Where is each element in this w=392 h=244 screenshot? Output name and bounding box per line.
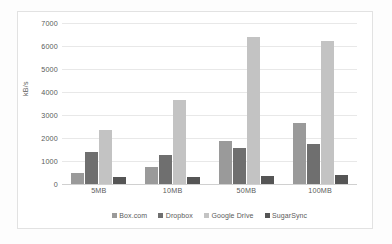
bar-group (210, 23, 284, 184)
x-axis: 5MB10MB50MB100MB (62, 186, 357, 202)
bar (159, 155, 172, 184)
legend-item: Dropbox (158, 212, 193, 219)
bar (187, 177, 200, 184)
legend-label: Box.com (119, 212, 147, 219)
bar-chart: kB/s 01000200030004000500060007000 5MB10… (0, 0, 392, 244)
bar (145, 167, 158, 184)
bar (71, 173, 84, 185)
legend-label: Dropbox (166, 212, 193, 219)
chart-legend: Box.comDropboxGoogle DriveSugarSync (62, 208, 357, 222)
x-axis-tick-label: 50MB (210, 186, 284, 195)
y-axis-tick-label: 4000 (41, 88, 58, 97)
legend-item: Google Drive (204, 212, 254, 219)
y-axis-tick-label: 1000 (41, 157, 58, 166)
x-axis-tick-label: 10MB (136, 186, 210, 195)
y-axis-tick-label: 5000 (41, 65, 58, 74)
legend-swatch-icon (112, 213, 117, 218)
legend-swatch-icon (204, 213, 209, 218)
legend-swatch-icon (158, 213, 163, 218)
y-axis-tick-label: 2000 (41, 134, 58, 143)
legend-label: SugarSync (272, 212, 307, 219)
bar (247, 37, 260, 184)
bar-group (283, 23, 357, 184)
y-axis-tick-label: 3000 (41, 111, 58, 120)
bar-group (136, 23, 210, 184)
y-axis-tick-label: 0 (54, 180, 58, 189)
legend-label: Google Drive (211, 212, 253, 219)
legend-swatch-icon (265, 213, 270, 218)
bar (113, 177, 126, 184)
y-axis-tick-label: 6000 (41, 42, 58, 51)
bar (307, 144, 320, 184)
bar (321, 41, 334, 184)
x-axis-tick-label: 5MB (62, 186, 136, 195)
legend-item: Box.com (112, 212, 147, 219)
bar (219, 141, 232, 184)
bar (85, 152, 98, 184)
legend-item: SugarSync (265, 212, 308, 219)
bar-group (62, 23, 136, 184)
x-axis-tick-label: 100MB (283, 186, 357, 195)
gridline (62, 184, 357, 185)
bar (173, 100, 186, 184)
bar (233, 148, 246, 184)
bar (293, 123, 306, 184)
bar (335, 175, 348, 184)
y-axis: 01000200030004000500060007000 (17, 23, 62, 184)
y-axis-tick-label: 7000 (41, 19, 58, 28)
bar (99, 130, 112, 184)
bar (261, 176, 274, 184)
plot-area (62, 23, 357, 184)
